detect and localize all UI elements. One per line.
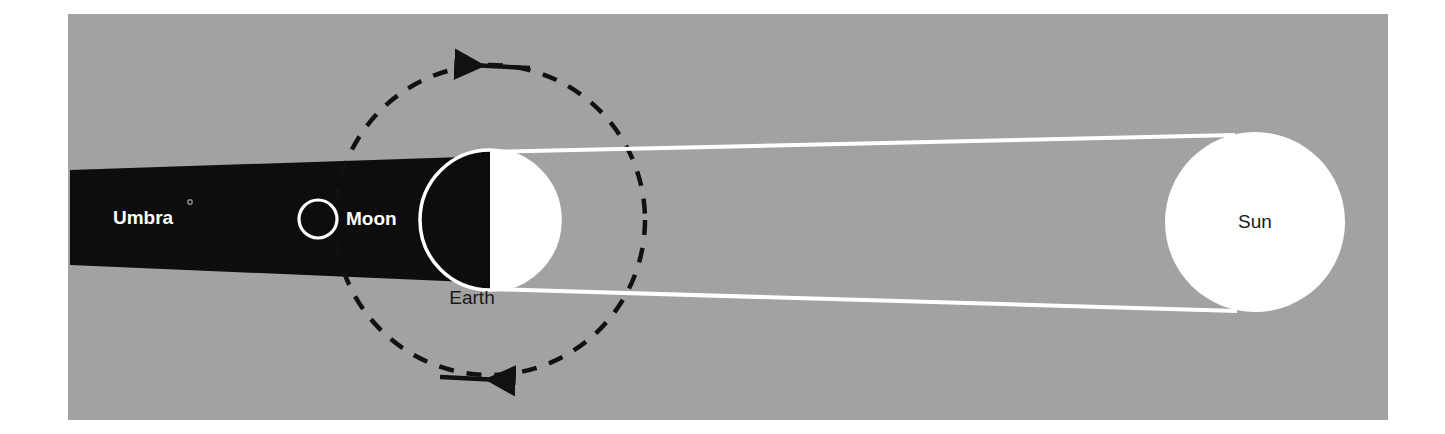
eclipse-diagram-canvas: Sun Earth Moon Umbra: [0, 0, 1445, 434]
moon-body: [299, 200, 337, 238]
orbit-direction-arrow-bottom: [440, 377, 500, 380]
eclipse-diagram-root: Sun Earth Moon Umbra: [0, 0, 1445, 434]
moon-disc: [299, 200, 337, 238]
umbra-label: Umbra: [113, 207, 174, 228]
moon-label: Moon: [346, 208, 397, 229]
orbit-direction-arrow-top: [470, 65, 530, 68]
earth-body: [420, 150, 560, 290]
sun-label: Sun: [1238, 211, 1272, 232]
earth-label: Earth: [449, 287, 494, 308]
